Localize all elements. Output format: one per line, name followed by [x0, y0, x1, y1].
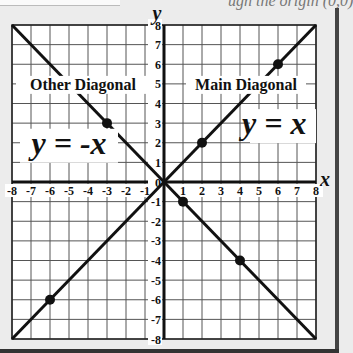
x-tick-label: -5 [64, 184, 74, 198]
x-axis-title: x [319, 168, 330, 190]
x-tick-label: -6 [45, 184, 55, 198]
x-tick-label: 2 [199, 184, 205, 198]
other-diagonal-point [235, 256, 245, 266]
annotation-other-diagonal: Other Diagonal [30, 76, 136, 94]
y-tick-label: -3 [151, 234, 161, 248]
y-tick-label: 1 [155, 156, 161, 170]
other-diagonal-point [178, 197, 188, 207]
y-tick-label: -8 [151, 333, 161, 347]
y-tick-label: 4 [155, 97, 161, 111]
y-tick-label: -2 [151, 215, 161, 229]
x-tick-label: -4 [83, 184, 93, 198]
main-diagonal-point [273, 59, 283, 69]
y-tick-label: -1 [151, 195, 161, 209]
x-tick-label: -3 [102, 184, 112, 198]
x-tick-label: -2 [121, 184, 131, 198]
y-tick-label: -5 [151, 274, 161, 288]
x-tick-label: -8 [7, 184, 17, 198]
x-tick-label: 4 [237, 184, 243, 198]
x-tick-label: 1 [180, 184, 186, 198]
y-tick-label: 3 [155, 117, 161, 131]
y-tick-label: -7 [151, 313, 161, 327]
equation-other-diagonal: y = -x [27, 125, 106, 161]
y-tick-label: -4 [151, 254, 161, 268]
x-tick-label: 8 [313, 184, 319, 198]
y-tick-label: 5 [155, 77, 161, 91]
x-tick-label: 6 [275, 184, 281, 198]
y-tick-label: 2 [155, 136, 161, 150]
other-diagonal-point [102, 118, 112, 128]
equation-main-diagonal: y = x [238, 105, 306, 141]
frame-shadow-right [335, 8, 339, 353]
frame-shadow-bottom [0, 349, 339, 353]
annotation-main-diagonal: Main Diagonal [195, 76, 297, 94]
x-tick-label: 5 [256, 184, 262, 198]
main-diagonal-point [45, 295, 55, 305]
y-axis-title: y [151, 2, 162, 25]
x-tick-label: -7 [26, 184, 36, 198]
x-tick-label: 7 [294, 184, 300, 198]
y-tick-label: 6 [155, 58, 161, 72]
y-tick-label: 7 [155, 38, 161, 52]
x-tick-label: 3 [218, 184, 224, 198]
y-tick-label: -6 [151, 293, 161, 307]
main-diagonal-point [197, 138, 207, 148]
